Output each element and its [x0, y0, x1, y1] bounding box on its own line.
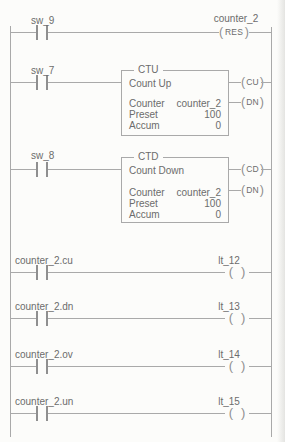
open-bracket-icon: (: [219, 24, 223, 40]
rung-3-wire: [10, 169, 36, 170]
flag-mnemonic: DN: [245, 97, 260, 107]
xic-contact-icon: [36, 359, 48, 374]
reset-mnemonic: RES: [224, 27, 244, 37]
open-paren-icon: (: [229, 263, 233, 281]
contact-tag: counter_2.un: [15, 396, 73, 407]
close-paren-icon: ): [241, 309, 245, 327]
rung-1-wire: [10, 32, 36, 33]
dn-flag: (DN): [241, 94, 261, 110]
rung-7-wire: [10, 413, 36, 414]
rung-6-wire: [249, 366, 271, 367]
dn-flag-wire: [229, 190, 241, 191]
xic-contact-icon: [36, 311, 48, 326]
rung-7-wire: [249, 413, 271, 414]
cu-flag: (CU): [241, 74, 261, 90]
param-value: counter_2: [177, 98, 221, 109]
xic-contact-icon: [36, 75, 48, 90]
left-power-rail: [10, 26, 11, 437]
block-param-row: Counter counter_2: [129, 98, 221, 109]
xic-contact-icon: [36, 25, 48, 40]
contact-tag: counter_2.ov: [15, 349, 73, 360]
ctu-block: CTU Count Up Counter counter_2 Preset 10…: [121, 70, 229, 136]
open-paren-icon: (: [229, 357, 233, 375]
contact-tag: counter_2.dn: [15, 301, 73, 312]
ladder-logic-diagram: sw_9 counter_2 (RES) sw_7 CTU Count Up C…: [0, 0, 285, 442]
contact-tag: counter_2.cu: [15, 255, 73, 266]
block-param-row: Accum 0: [129, 209, 221, 220]
rung-4-wire: [10, 272, 36, 273]
dn-flag-wire: [229, 102, 241, 103]
rung-1-wire: [249, 32, 271, 33]
rung-5-wire: [249, 318, 271, 319]
reset-coil-icon: (RES): [219, 24, 249, 40]
flag-mnemonic: DN: [245, 185, 260, 195]
rung-6-wire: [10, 366, 36, 367]
block-param-row: Accum 0: [129, 120, 221, 131]
open-paren-icon: (: [229, 404, 233, 422]
close-paren-icon: ): [241, 404, 245, 422]
cd-flag-wire: [229, 169, 241, 170]
rung-6-wire: [48, 366, 225, 367]
param-value: counter_2: [177, 187, 221, 198]
param-name: Accum: [129, 209, 160, 220]
xic-contact-icon: [36, 406, 48, 421]
param-name: Accum: [129, 120, 160, 131]
rung-4-wire: [249, 272, 271, 273]
scan-edge-shadow: [277, 0, 285, 442]
close-bracket-icon: ): [260, 94, 264, 110]
param-value: 100: [204, 109, 221, 120]
rung-1-wire: [48, 32, 219, 33]
right-power-rail: [271, 27, 272, 437]
cd-flag-wire: [261, 169, 271, 170]
contact-tag: sw_7: [31, 65, 54, 76]
rung-2-wire: [48, 82, 121, 83]
dn-flag: (DN): [241, 182, 261, 198]
cd-flag: (CD): [241, 161, 261, 177]
rung-5-wire: [48, 318, 225, 319]
output-coil-icon: (): [225, 309, 249, 327]
cu-flag-wire: [261, 82, 271, 83]
rung-4-wire: [48, 272, 225, 273]
param-value: 100: [204, 198, 221, 209]
param-name: Counter: [129, 98, 165, 109]
block-param-row: Preset 100: [129, 109, 221, 120]
flag-mnemonic: CD: [245, 164, 260, 174]
contact-tag: sw_8: [31, 150, 54, 161]
block-title: CTU: [134, 64, 163, 76]
close-paren-icon: ): [241, 357, 245, 375]
block-param-row: Counter counter_2: [129, 187, 221, 198]
block-description: Count Down: [129, 165, 184, 176]
xic-contact-icon: [36, 162, 48, 177]
param-name: Preset: [129, 198, 158, 209]
close-paren-icon: ): [241, 263, 245, 281]
param-value: 0: [215, 209, 221, 220]
ctd-block: CTD Count Down Counter counter_2 Preset …: [121, 157, 229, 223]
param-value: 0: [215, 120, 221, 131]
open-paren-icon: (: [229, 309, 233, 327]
reset-coil-tag: counter_2: [206, 13, 266, 24]
block-param-row: Preset 100: [129, 198, 221, 209]
block-description: Count Up: [129, 78, 171, 89]
close-bracket-icon: ): [260, 182, 264, 198]
output-coil-icon: (): [225, 357, 249, 375]
contact-tag: sw_9: [31, 15, 54, 26]
rung-5-wire: [10, 318, 36, 319]
param-name: Preset: [129, 109, 158, 120]
flag-mnemonic: CU: [245, 77, 260, 87]
output-coil-icon: (): [225, 263, 249, 281]
rung-7-wire: [48, 413, 225, 414]
rung-3-wire: [48, 169, 121, 170]
cu-flag-wire: [229, 82, 241, 83]
output-coil-icon: (): [225, 404, 249, 422]
param-name: Counter: [129, 187, 165, 198]
xic-contact-icon: [36, 265, 48, 280]
block-title: CTD: [134, 151, 163, 163]
rung-2-wire: [10, 82, 36, 83]
